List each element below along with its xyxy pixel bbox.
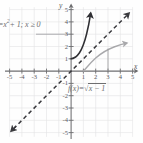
x-tick-label: 2 bbox=[90, 73, 102, 80]
x-tick-label: -5 bbox=[4, 73, 16, 80]
y-tick-label: -2 bbox=[56, 92, 68, 99]
y-tick-label: -4 bbox=[56, 116, 68, 123]
x-tick-label: 1 bbox=[77, 73, 89, 80]
y-tick-label: -1 bbox=[56, 79, 68, 86]
radicand: x − 1 bbox=[88, 83, 105, 93]
x-tick-label: 4 bbox=[114, 73, 126, 80]
graph-figure: x y -5 -4 -3 -2 -1 1 2 3 4 5 5 4 3 2 1 -… bbox=[0, 0, 143, 143]
x-tick-label: 5 bbox=[127, 73, 139, 80]
y-tick-label: 4 bbox=[56, 18, 68, 25]
parabola-curve bbox=[71, 14, 91, 59]
equation-tail: + 1; x ≥ 0 bbox=[9, 20, 40, 29]
y-tick-label: 1 bbox=[56, 55, 68, 62]
x-tick-label: 3 bbox=[102, 73, 114, 80]
parabola-equation-label: =x2+ 1; x ≥ 0 bbox=[0, 20, 40, 29]
x-tick-label: -4 bbox=[16, 73, 28, 80]
sqrt-function-label: f(x)=√x − 1 bbox=[68, 84, 106, 93]
x-tick-label: -2 bbox=[41, 73, 53, 80]
identity-line-arrow-start bbox=[12, 126, 17, 131]
x-axis-label: x bbox=[134, 62, 137, 71]
y-tick-label: 2 bbox=[56, 43, 68, 50]
y-tick-label: 5 bbox=[56, 6, 68, 13]
y-tick-label: -3 bbox=[56, 104, 68, 111]
y-tick-label: 3 bbox=[56, 30, 68, 37]
y-tick-label: -5 bbox=[56, 129, 68, 136]
function-name: f(x) bbox=[68, 84, 79, 93]
x-tick-label: -3 bbox=[28, 73, 40, 80]
